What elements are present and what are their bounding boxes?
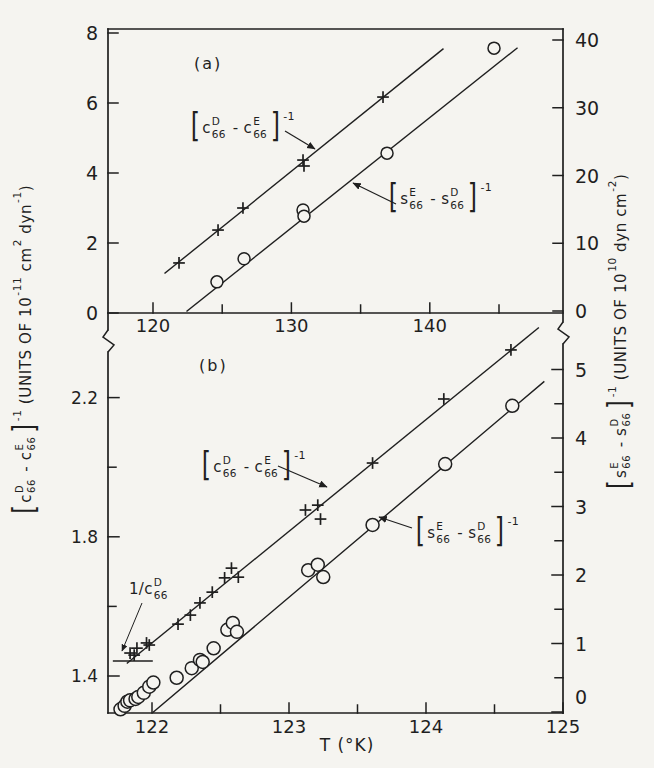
svg-text:124: 124 (409, 716, 443, 737)
panel-b-s-label-arrow (379, 517, 412, 528)
svg-text:0: 0 (575, 300, 587, 322)
intercept-pointer-arrow (122, 603, 142, 651)
svg-text:1: 1 (575, 633, 587, 655)
svg-text:0: 0 (86, 302, 98, 324)
svg-text:120: 120 (136, 315, 170, 336)
svg-text:8: 8 (86, 22, 98, 44)
panel-b-c66-inverse-label: [cD66 - cE66]-1 (200, 455, 306, 478)
svg-text:20: 20 (575, 165, 599, 187)
svg-text:123: 123 (272, 716, 306, 737)
panel-a-label: (a) (194, 54, 222, 73)
svg-text:10: 10 (575, 232, 599, 254)
panel-a-c66-inverse-label: [cD66 - cE66]-1 (189, 116, 295, 139)
panel-b-intercept-label: 1/cD66 (129, 577, 170, 600)
panel-b-plus-series (125, 328, 538, 663)
svg-text:0: 0 (575, 686, 587, 708)
chart-canvas: 120130140024680102030401221231241251.41.… (0, 0, 654, 768)
panel-b-label: (b) (199, 356, 228, 375)
panel-a-ticks: 12013014002468010203040 (86, 22, 599, 336)
svg-text:4: 4 (575, 427, 587, 449)
x-axis-title: T (°K) (320, 735, 375, 755)
svg-text:6: 6 (86, 92, 98, 114)
svg-text:125: 125 (546, 716, 580, 737)
svg-text:3: 3 (575, 496, 587, 518)
svg-text:1.4: 1.4 (71, 666, 98, 686)
svg-text:2: 2 (86, 232, 98, 254)
figure: 120130140024680102030401221231241251.41.… (0, 0, 654, 768)
svg-text:5: 5 (575, 359, 587, 381)
panel-a-plus-series (165, 49, 443, 273)
svg-text:140: 140 (413, 315, 447, 336)
panel-b-s66-inverse-label: [sE66 - sD66]-1 (414, 521, 519, 544)
svg-text:1.8: 1.8 (71, 527, 98, 547)
svg-text:4: 4 (86, 162, 98, 184)
panel-b-circle-series (114, 382, 544, 716)
svg-text:2.2: 2.2 (71, 388, 98, 408)
panel-a-s66-inverse-label: [sE66 - sD66]-1 (387, 187, 492, 210)
svg-text:2: 2 (575, 564, 587, 586)
svg-text:122: 122 (135, 716, 169, 737)
svg-text:40: 40 (575, 29, 599, 51)
axes (103, 29, 569, 713)
svg-text:130: 130 (274, 315, 308, 336)
svg-text:30: 30 (575, 97, 599, 119)
